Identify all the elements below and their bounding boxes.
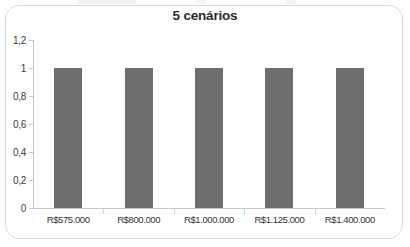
chart-screenshot: 5 cenários 1,210,80,60,40,20 R$575.000R$… xyxy=(0,0,410,247)
x-tick-label: R$1.400.000 xyxy=(325,214,375,225)
y-tick-mark xyxy=(29,68,33,69)
bar xyxy=(336,68,364,208)
y-tick-mark xyxy=(29,124,33,125)
x-axis-line xyxy=(33,208,385,209)
y-tick-mark xyxy=(29,180,33,181)
y-tick-label: 1,2 xyxy=(0,35,26,46)
y-tick-label: 0,4 xyxy=(0,147,26,158)
category-separator xyxy=(244,209,245,214)
plot-area: 1,210,80,60,40,20 R$575.000R$800.000R$1.… xyxy=(0,0,410,247)
bar xyxy=(195,68,223,208)
bar xyxy=(265,68,293,208)
y-tick-label: 0 xyxy=(0,203,26,214)
y-tick-mark xyxy=(29,208,33,209)
y-axis-line xyxy=(33,40,34,208)
x-tick-label: R$575.000 xyxy=(47,214,90,225)
category-separator xyxy=(315,209,316,214)
y-tick-label: 1 xyxy=(0,63,26,74)
y-tick-label: 0,8 xyxy=(0,91,26,102)
category-separator xyxy=(174,209,175,214)
bar xyxy=(125,68,153,208)
y-tick-label: 0,6 xyxy=(0,119,26,130)
category-separator xyxy=(103,209,104,214)
bar xyxy=(54,68,82,208)
x-tick-label: R$1.125.000 xyxy=(254,214,304,225)
x-tick-label: R$1.000.000 xyxy=(184,214,234,225)
y-tick-mark xyxy=(29,152,33,153)
y-tick-mark xyxy=(29,96,33,97)
x-tick-label: R$800.000 xyxy=(117,214,160,225)
y-tick-label: 0,2 xyxy=(0,175,26,186)
y-tick-mark xyxy=(29,40,33,41)
